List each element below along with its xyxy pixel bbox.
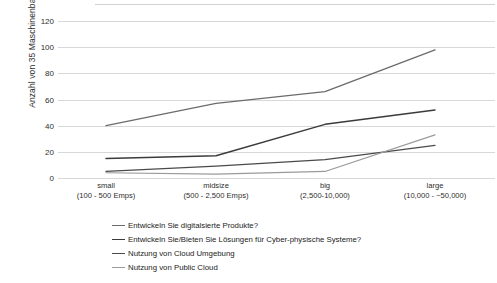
legend-item-4[interactable]: Nutzung von Public Cloud: [112, 260, 412, 274]
legend-item-2[interactable]: Entwickeln Sie/Bieten Sie Lösungen für C…: [112, 232, 412, 246]
series-lines: [58, 21, 495, 178]
x-category-big-name: big: [300, 181, 350, 191]
plot-area: 120 100 80 60 40 20 0: [58, 21, 495, 178]
x-category-small-name: small: [77, 181, 136, 191]
legend-item-3[interactable]: Nutzung von Cloud Umgebung: [112, 246, 412, 260]
x-axis-labels: small (100 - 500 Emps) midsize (500 - 2,…: [58, 181, 495, 209]
legend-line-swatch-icon: [112, 253, 125, 254]
x-category-big: big (2,500-10,000): [300, 181, 350, 201]
gridline-0: 0: [58, 178, 495, 179]
x-category-large-range: (10,000 - ~50,000): [404, 191, 467, 201]
chart-legend: Entwickeln Sie digitalsierte Produkte?En…: [112, 218, 412, 274]
series-line-3: [106, 145, 435, 171]
x-category-midsize: midsize (500 - 2,500 Emps): [184, 181, 249, 201]
series-line-1: [106, 50, 435, 126]
line-chart-figure: Anzahl von 35 Maschinenbau-Unternehmen 1…: [0, 0, 497, 283]
x-category-small-range: (100 - 500 Emps): [77, 191, 136, 201]
legend-line-swatch-icon: [112, 239, 125, 240]
legend-line-swatch-icon: [112, 225, 125, 226]
y-tick-label-80: 80: [45, 69, 54, 78]
legend-item-label: Nutzung von Cloud Umgebung: [128, 249, 235, 258]
x-category-midsize-name: midsize: [184, 181, 249, 191]
x-category-midsize-range: (500 - 2,500 Emps): [184, 191, 249, 201]
y-axis-title: Anzahl von 35 Maschinenbau-Unternehmen: [27, 0, 37, 118]
y-tick-label-120: 120: [41, 17, 54, 26]
y-tick-label-40: 40: [45, 121, 54, 130]
legend-item-1[interactable]: Entwickeln Sie digitalsierte Produkte?: [112, 218, 412, 232]
legend-item-label: Nutzung von Public Cloud: [128, 263, 218, 272]
y-tick-label-60: 60: [45, 95, 54, 104]
y-tick-label-0: 0: [50, 174, 54, 183]
legend-item-label: Entwickeln Sie digitalsierte Produkte?: [128, 221, 258, 230]
y-tick-label-20: 20: [45, 147, 54, 156]
legend-line-swatch-icon: [112, 267, 125, 268]
x-category-large-name: large: [404, 181, 467, 191]
y-tick-label-100: 100: [41, 43, 54, 52]
scan-artifact-line: [95, 4, 495, 5]
x-category-small: small (100 - 500 Emps): [77, 181, 136, 201]
legend-item-label: Entwickeln Sie/Bieten Sie Lösungen für C…: [128, 235, 361, 244]
x-category-large: large (10,000 - ~50,000): [404, 181, 467, 201]
x-category-big-range: (2,500-10,000): [300, 191, 350, 201]
